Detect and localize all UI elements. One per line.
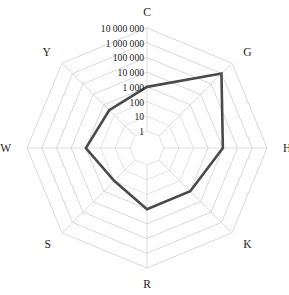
axis-label-K: K	[243, 238, 252, 250]
axis-label-R: R	[143, 278, 151, 290]
axis-spoke-K	[159, 160, 232, 233]
tick-label-1: 1	[139, 126, 144, 137]
radar-chart-svg: 1101001 00010 000100 0001 000 00010 000 …	[0, 0, 289, 295]
axis-spoke-S	[62, 160, 135, 233]
radar-chart: 1101001 00010 000100 0001 000 00010 000 …	[0, 0, 289, 295]
tick-label-10000: 10 000	[118, 67, 145, 78]
axis-label-W: W	[0, 142, 11, 154]
tick-label-1000000: 1 000 000	[106, 38, 145, 49]
axis-label-Y: Y	[43, 46, 52, 58]
tick-label-1000: 1 000	[122, 82, 144, 93]
axis-spokes	[27, 28, 267, 268]
tick-label-100: 100	[130, 97, 145, 108]
radial-tick-labels: 1101001 00010 000100 0001 000 00010 000 …	[101, 23, 144, 137]
axis-label-G: G	[243, 46, 251, 58]
grid-ring-1	[130, 131, 164, 165]
tick-label-100000: 100 000	[113, 52, 144, 63]
axis-label-H: H	[283, 142, 289, 154]
axis-label-S: S	[44, 238, 50, 250]
axis-label-C: C	[143, 6, 151, 18]
tick-label-10: 10	[134, 111, 144, 122]
tick-label-10000000: 10 000 000	[101, 23, 144, 34]
